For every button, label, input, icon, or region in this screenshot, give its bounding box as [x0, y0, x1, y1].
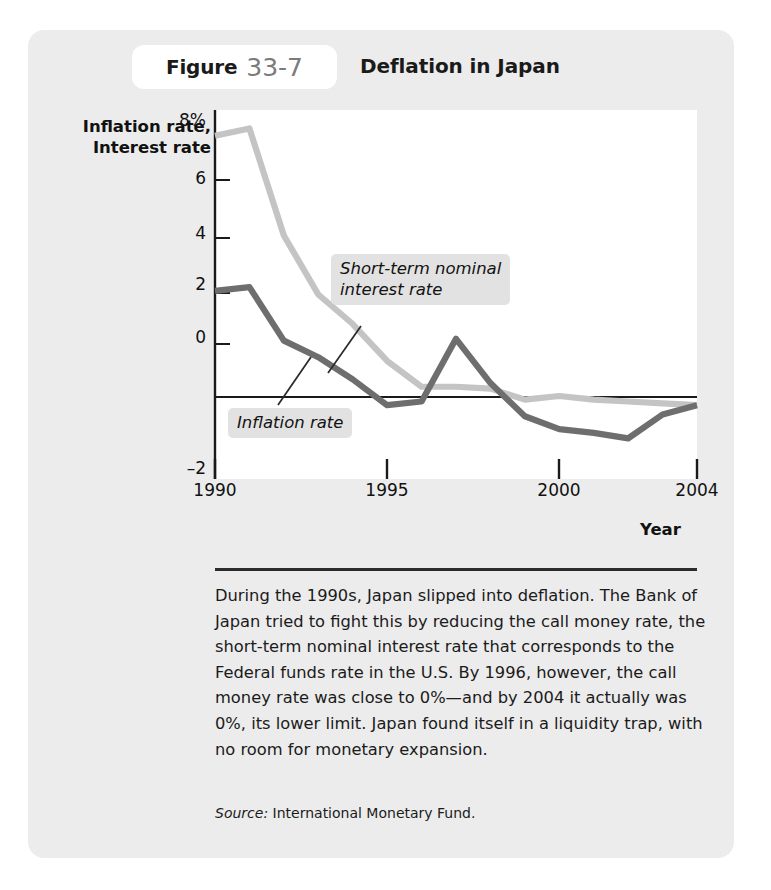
chart-container: Inflation rate, Interest rate: [28, 30, 734, 500]
caption-divider: [215, 568, 697, 571]
x-tick-label-2004: 2004: [652, 480, 742, 500]
y-tick-label-0: 0: [136, 327, 206, 347]
series-label-interest-rate: Short-term nominal interest rate: [331, 254, 510, 305]
series-label-inflation-rate: Inflation rate: [228, 408, 352, 438]
x-tick-label-1995: 1995: [342, 480, 432, 500]
y-tick-label-4: 4: [136, 223, 206, 243]
caption-text: During the 1990s, Japan slipped into def…: [215, 583, 707, 762]
y-axis-ticks: [215, 180, 230, 344]
leader-line-interest-rate: [328, 326, 361, 373]
y-tick-label-6: 6: [136, 168, 206, 188]
source-label: Source:: [215, 805, 268, 821]
x-axis-title: Year: [640, 520, 681, 539]
source-line: Source: International Monetary Fund.: [215, 805, 707, 821]
y-tick-label-2: 2: [136, 274, 206, 294]
source-text: International Monetary Fund.: [273, 805, 476, 821]
x-tick-label-2000: 2000: [514, 480, 604, 500]
x-tick-label-1990: 1990: [170, 480, 260, 500]
y-tick-label-8: 8%: [136, 110, 206, 130]
figure-card: Figure 33-7 Deflation in Japan Inflation…: [28, 30, 734, 858]
x-axis-ticks: [215, 459, 697, 479]
y-tick-label-minus2: –2: [136, 458, 206, 478]
